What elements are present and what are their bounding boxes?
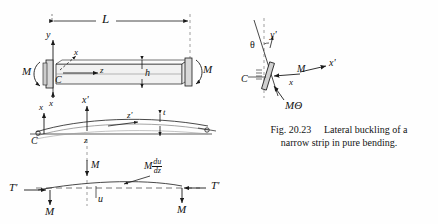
label-axis-x-prime-detail: x' <box>329 58 336 68</box>
figure-caption: Fig. 20.23 Lateral buckling of a narrow … <box>246 124 432 149</box>
torque-denominator: dz <box>152 167 162 175</box>
label-axis-z: z <box>100 66 104 75</box>
label-thickness-t: t <box>163 108 166 117</box>
label-axis-z-prime: z' <box>127 111 132 120</box>
caption-line1: Lateral buckling of a <box>324 124 408 135</box>
label-axis-x-prime: x' <box>82 95 89 105</box>
cross-section-hatching <box>256 70 262 79</box>
label-depth-h: h <box>145 68 150 78</box>
label-deflection-u: u <box>98 194 103 204</box>
label-moment-M-detail: M <box>297 64 305 74</box>
label-axis-z-middle: z <box>84 136 88 145</box>
caption-number: Fig. 20.23 <box>271 124 312 135</box>
angle-theta-arc <box>264 43 269 44</box>
label-moment-M-left: M <box>22 66 31 77</box>
label-force-T-prime-right: T' <box>211 180 219 191</box>
tilted-cross-section <box>262 62 275 90</box>
label-axis-x-upper: x <box>74 48 78 57</box>
label-axis-y-prime-detail: y' <box>270 30 277 40</box>
label-moment-M-center: M <box>91 160 99 170</box>
torque-fraction: dudz <box>152 158 162 175</box>
label-moment-M-right: M <box>203 64 212 75</box>
label-moment-M-bottom-left: M <box>45 206 54 217</box>
buckled-strip-bottom-edge <box>36 131 208 139</box>
label-force-T-prime-left: T' <box>9 182 17 193</box>
moment-arc-left <box>34 62 40 86</box>
figure-container: L y x z x C h M M x x' z z' t C T' T' M … <box>0 0 438 224</box>
label-origin-C-detail: C <box>241 74 248 84</box>
label-moment-M-bottom-right: M <box>177 204 186 215</box>
label-origin-C-top: C <box>55 75 62 85</box>
top-diagram-group <box>34 14 202 98</box>
beam-top-face <box>56 60 188 64</box>
label-torque-M-dudz: Mdudz <box>144 158 162 175</box>
right-detail-group <box>248 18 326 100</box>
support-bar-right <box>198 128 216 131</box>
moment-arc-right <box>196 60 202 84</box>
torque-prefix: M <box>144 160 152 171</box>
bottom-diagram-group <box>24 160 206 206</box>
label-axis-x-lower: x <box>49 99 53 108</box>
left-end-plate-edge <box>43 63 47 85</box>
middle-diagram-group <box>30 106 216 162</box>
deflected-axis-plan <box>38 182 182 190</box>
label-moment-M-theta: MΘ <box>285 100 302 111</box>
label-origin-C-middle: C <box>31 136 38 146</box>
label-axis-x-middle: x <box>39 103 43 112</box>
moment-M-theta-arrow <box>274 86 284 100</box>
moment-M-detail-arrow <box>274 74 300 76</box>
label-axis-y: y <box>46 30 50 40</box>
right-end-plate <box>185 58 192 86</box>
label-axis-x-detail: x <box>289 78 293 87</box>
label-angle-theta: θ <box>250 40 255 50</box>
label-length-L: L <box>102 12 109 25</box>
leader-M-dudz <box>124 176 150 184</box>
cross-section-body <box>262 62 275 90</box>
caption-line2: narrow strip in pure bending. <box>281 137 397 148</box>
